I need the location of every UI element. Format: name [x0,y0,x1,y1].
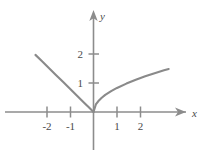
y-tick-label-1: 1 [78,77,84,89]
curve-left-branch [35,55,93,112]
y-axis-label: y [99,10,105,22]
y-axis [89,10,97,150]
x-axis-label: x [191,107,197,119]
x-tick-label-neg1: -1 [66,120,75,132]
x-tick-label-neg2: -2 [42,120,51,132]
curve-right-branch [94,69,169,112]
coordinate-plot: -2 -1 1 2 1 2 x y [0,0,222,159]
y-tick-label-2: 2 [78,48,84,60]
x-tick-label-1: 1 [114,120,120,132]
x-tick-label-2: 2 [138,120,144,132]
graph-figure: -2 -1 1 2 1 2 x y [0,0,222,159]
